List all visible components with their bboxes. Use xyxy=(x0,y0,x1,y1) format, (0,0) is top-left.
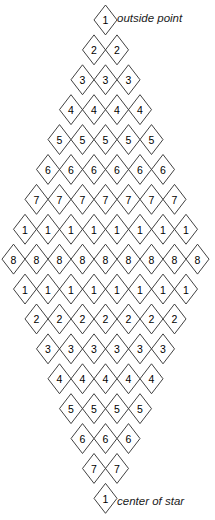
lattice-cell-digit: 1 xyxy=(114,224,120,236)
lattice-cell-digit: 1 xyxy=(103,14,109,26)
lattice-cell-digit: 4 xyxy=(114,104,120,116)
lattice-cell-digit: 1 xyxy=(160,284,166,296)
lattice-cell-digit: 6 xyxy=(137,164,143,176)
lattice-cell-digit: 6 xyxy=(80,433,86,445)
lattice-cell-digit: 7 xyxy=(103,194,109,206)
lattice-cell-digit: 4 xyxy=(137,104,143,116)
center-of-star-label: center of star xyxy=(117,495,185,507)
lattice-cell-digit: 1 xyxy=(22,284,28,296)
lattice-cell-digit: 1 xyxy=(114,284,120,296)
rhombus-lattice-figure: 1223334444555556666667777777111111118888… xyxy=(0,0,215,520)
lattice-cell-digit: 8 xyxy=(11,254,17,266)
lattice-cell-digit: 6 xyxy=(114,164,120,176)
lattice-cell-digit: 8 xyxy=(57,254,63,266)
lattice-cell-digit: 7 xyxy=(34,194,40,206)
lattice-cell-digit: 5 xyxy=(68,403,74,415)
lattice-cell-digit: 6 xyxy=(126,433,132,445)
lattice-cell-digit: 8 xyxy=(172,254,178,266)
lattice-cell-digit: 1 xyxy=(45,284,51,296)
lattice-cell-digit: 8 xyxy=(126,254,132,266)
lattice-cell-digit: 3 xyxy=(91,343,97,355)
lattice-cell-digit: 5 xyxy=(149,134,155,146)
lattice-cell-digit: 2 xyxy=(149,313,155,325)
lattice-cell-digit: 8 xyxy=(149,254,155,266)
lattice-cell-digit: 2 xyxy=(34,313,40,325)
lattice-cell-digit: 6 xyxy=(68,164,74,176)
lattice-cell-digit: 4 xyxy=(91,104,97,116)
lattice-cell-digit: 4 xyxy=(126,373,132,385)
lattice-cell-digit: 1 xyxy=(137,224,143,236)
lattice-cell-digit: 3 xyxy=(160,343,166,355)
lattice-cell-digit: 2 xyxy=(91,44,97,56)
lattice-cell-digit: 4 xyxy=(103,373,109,385)
lattice-cell-digit: 1 xyxy=(68,284,74,296)
lattice-cell-digit: 3 xyxy=(103,74,109,86)
lattice-cell-digit: 6 xyxy=(103,433,109,445)
lattice-cell-digit: 2 xyxy=(126,313,132,325)
lattice-cell-digit: 8 xyxy=(34,254,40,266)
lattice-cell-digit: 1 xyxy=(22,224,28,236)
lattice-cell-digit: 1 xyxy=(183,284,189,296)
lattice-digit-group: 1223334444555556666667777777111111118888… xyxy=(11,14,201,504)
lattice-cell-digit: 1 xyxy=(91,284,97,296)
lattice-cell-digit: 7 xyxy=(172,194,178,206)
lattice-svg: 1223334444555556666667777777111111118888… xyxy=(0,0,215,520)
lattice-cell-digit: 1 xyxy=(45,224,51,236)
lattice-cell-digit: 8 xyxy=(195,254,201,266)
lattice-cell-digit: 7 xyxy=(91,463,97,475)
lattice-cell-digit: 6 xyxy=(45,164,51,176)
outside-point-label: outside point xyxy=(117,12,183,24)
lattice-cell-digit: 2 xyxy=(80,313,86,325)
lattice-cell-digit: 5 xyxy=(137,403,143,415)
lattice-cell-digit: 8 xyxy=(103,254,109,266)
lattice-cell-digit: 7 xyxy=(126,194,132,206)
lattice-cell-digit: 5 xyxy=(103,134,109,146)
lattice-cell-digit: 4 xyxy=(68,104,74,116)
lattice-cell-digit: 3 xyxy=(137,343,143,355)
lattice-cell-digit: 2 xyxy=(114,44,120,56)
lattice-cell-digit: 4 xyxy=(149,373,155,385)
lattice-cell-digit: 3 xyxy=(68,343,74,355)
lattice-cell-digit: 7 xyxy=(114,463,120,475)
lattice-cell-digit: 4 xyxy=(57,373,63,385)
lattice-cell-digit: 7 xyxy=(57,194,63,206)
lattice-cell-digit: 4 xyxy=(80,373,86,385)
lattice-cell-digit: 2 xyxy=(57,313,63,325)
lattice-cell-digit: 1 xyxy=(68,224,74,236)
lattice-cell-digit: 2 xyxy=(103,313,109,325)
lattice-cell-digit: 8 xyxy=(80,254,86,266)
lattice-cell-digit: 5 xyxy=(80,134,86,146)
lattice-cell-digit: 7 xyxy=(149,194,155,206)
lattice-cell-digit: 1 xyxy=(103,493,109,505)
lattice-cell-digit: 3 xyxy=(114,343,120,355)
lattice-cell-digit: 5 xyxy=(91,403,97,415)
lattice-cell-digit: 2 xyxy=(172,313,178,325)
lattice-cell-digit: 1 xyxy=(183,224,189,236)
lattice-cell-digit: 6 xyxy=(91,164,97,176)
lattice-cell-digit: 3 xyxy=(45,343,51,355)
lattice-cell-digit: 1 xyxy=(91,224,97,236)
lattice-cell-digit: 3 xyxy=(80,74,86,86)
lattice-cell-digit: 1 xyxy=(160,224,166,236)
lattice-cell-digit: 7 xyxy=(80,194,86,206)
lattice-cell-digit: 1 xyxy=(137,284,143,296)
lattice-cell-digit: 5 xyxy=(126,134,132,146)
lattice-cell-digit: 3 xyxy=(126,74,132,86)
lattice-cell-digit: 5 xyxy=(114,403,120,415)
lattice-cell-digit: 6 xyxy=(160,164,166,176)
lattice-cell-digit: 5 xyxy=(57,134,63,146)
